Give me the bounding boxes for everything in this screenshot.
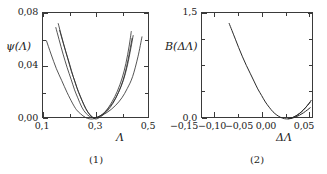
xtick-label: −0,05 <box>225 121 253 131</box>
panel-caption: (2) <box>250 154 264 165</box>
xtick-label: −0,10 <box>198 121 226 131</box>
xtick-label: 0,05 <box>294 121 314 131</box>
ytick-label: 1,5 <box>164 7 197 17</box>
data-curves-panel-2 <box>202 13 314 119</box>
curve-curve-4 <box>60 30 132 119</box>
y-axis-title: ψ(Λ) <box>6 40 31 53</box>
xtick-label: 0,3 <box>88 121 103 131</box>
curve-curve-main <box>229 23 310 118</box>
curve-curve-3 <box>58 24 131 118</box>
panel-2: 1,5 0,0 −0,15 −0,10 −0,05 0,00 0,05 B(ΔΛ… <box>164 0 327 174</box>
xtick-label: 0,1 <box>35 121 50 131</box>
y-axis-title: B(ΔΛ) <box>165 40 198 53</box>
x-axis-title: Λ <box>116 131 124 144</box>
figure-container: 0,08 0,04 0,00 0,1 0,3 0,5 ψ(Λ) Λ (1) <box>0 0 327 174</box>
x-axis-title: ΔΛ <box>276 131 292 144</box>
data-curves-panel-1 <box>43 13 150 119</box>
panel-1: 0,08 0,04 0,00 0,1 0,3 0,5 ψ(Λ) Λ (1) <box>0 0 163 174</box>
curve-curve-2 <box>56 28 133 118</box>
ytick-label: 0,04 <box>2 60 38 70</box>
ytick-label: 0,08 <box>2 7 38 17</box>
xtick-label: 0,00 <box>256 121 276 131</box>
curve-curve-1 <box>46 37 141 119</box>
plot-frame-2 <box>201 12 313 118</box>
panel-caption: (1) <box>89 154 103 165</box>
xtick-label: 0,5 <box>141 121 156 131</box>
xtick-label: −0,15 <box>170 121 198 131</box>
plot-frame-1 <box>42 12 149 118</box>
ytick-label: 0,00 <box>2 113 38 123</box>
